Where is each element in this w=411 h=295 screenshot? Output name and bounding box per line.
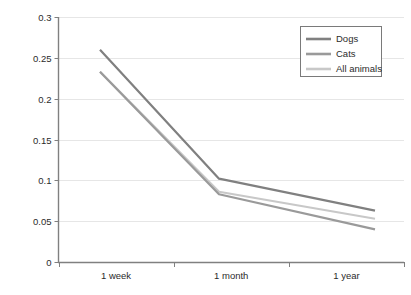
y-tick-label: 0.15 bbox=[33, 135, 52, 146]
y-tick-label: 0.1 bbox=[38, 175, 51, 186]
y-tick-label: 0.2 bbox=[38, 94, 51, 105]
legend-label-dogs: Dogs bbox=[336, 33, 358, 44]
y-tick-label: 0.05 bbox=[33, 216, 52, 227]
y-tick-label: 0 bbox=[46, 257, 51, 268]
y-tick-label: 0.25 bbox=[33, 53, 52, 64]
chart-canvas: 00.050.10.150.20.250.3 1 week1 month1 ye… bbox=[0, 0, 411, 295]
legend-label-cats: Cats bbox=[336, 48, 356, 59]
x-tick-label: 1 year bbox=[333, 270, 359, 281]
line-chart: 00.050.10.150.20.250.3 1 week1 month1 ye… bbox=[0, 0, 411, 295]
chart-legend: DogsCatsAll animals bbox=[301, 27, 383, 77]
x-tick-label: 1 week bbox=[101, 270, 131, 281]
y-tick-label: 0.3 bbox=[38, 12, 51, 23]
x-tick-label: 1 month bbox=[214, 270, 248, 281]
legend-label-all-animals: All animals bbox=[336, 63, 382, 74]
